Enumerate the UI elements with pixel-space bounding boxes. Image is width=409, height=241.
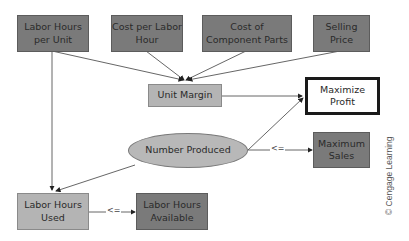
node-labor-hours-available: Labor HoursAvailable xyxy=(136,193,208,230)
node-cost-of-component-parts: Cost ofComponent Parts xyxy=(202,15,292,52)
node-cost-per-labor-hour: Cost per LaborHour xyxy=(111,15,183,52)
constraint-label-labor: <= xyxy=(106,206,121,215)
node-labor-hours-used: Labor HoursUsed xyxy=(17,193,89,230)
node-maximize-profit: MaximizeProfit xyxy=(305,77,380,115)
constraint-label-sales: <= xyxy=(270,144,285,153)
node-number-produced: Number Produced xyxy=(128,133,248,168)
node-labor-hours-per-unit: Labor Hoursper Unit xyxy=(17,15,89,52)
copyright-credit: © Cengage Learning xyxy=(384,136,394,215)
node-unit-margin: Unit Margin xyxy=(148,84,222,107)
node-maximum-sales: MaximumSales xyxy=(313,132,370,168)
node-selling-price: SellingPrice xyxy=(313,15,370,52)
